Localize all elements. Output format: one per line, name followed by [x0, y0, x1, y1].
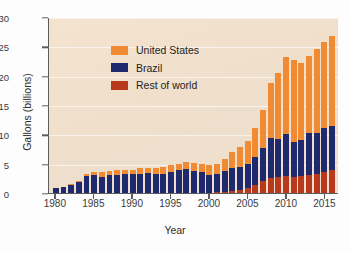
bar-segment [237, 190, 243, 193]
x-axis-tick: 1980 [44, 198, 66, 209]
x-axis-label: Year [0, 224, 350, 236]
bar-segment [252, 185, 258, 193]
x-axis-tick: 1995 [159, 198, 181, 209]
bar-segment [245, 188, 251, 193]
y-axis-tick: 20 [0, 71, 9, 82]
x-axis-tick: 1985 [82, 198, 104, 209]
bar-2016 [329, 18, 335, 193]
bar-segment [268, 138, 274, 178]
y-axis-tick: 30 [0, 13, 9, 24]
bar-segment [130, 174, 136, 193]
bar-segment [229, 168, 235, 191]
y-axis-tick-mark [42, 17, 48, 18]
bar-2010 [283, 18, 289, 193]
bar-2000 [206, 18, 212, 193]
x-axis-tick: 2015 [313, 198, 335, 209]
bar-segment [237, 167, 243, 190]
y-axis-tick-mark [42, 135, 48, 136]
y-axis-tick: 15 [0, 101, 9, 112]
bar-segment [245, 141, 251, 164]
legend-item-brazil: Brazil [111, 62, 199, 74]
bar-segment [252, 157, 258, 185]
bar-2001 [214, 18, 220, 193]
bar-segment [191, 171, 197, 193]
bar-segment [298, 140, 304, 176]
x-axis-tick: 1990 [121, 198, 143, 209]
bar-2009 [275, 18, 281, 193]
bar-segment [168, 165, 174, 173]
bar-2003 [229, 18, 235, 193]
legend-label-rest-of-world: Rest of world [136, 79, 197, 91]
bar-segment [176, 170, 182, 193]
y-axis-tick-mark [42, 47, 48, 48]
y-axis-tick-mark [42, 164, 48, 165]
x-axis-tick-mark [131, 194, 132, 199]
bar-segment [76, 182, 82, 193]
bar-2005 [245, 18, 251, 193]
bar-segment [222, 192, 228, 193]
chart-legend: United States Brazil Rest of world [111, 44, 199, 97]
bar-segment [160, 174, 166, 193]
bar-segment [168, 172, 174, 193]
bar-1983 [76, 18, 82, 193]
x-axis-tick-mark [285, 194, 286, 199]
bar-segment [137, 174, 143, 193]
bar-segment [199, 164, 205, 172]
bar-segment [306, 56, 312, 133]
x-axis-tick-mark [93, 194, 94, 199]
bar-segment [53, 188, 59, 193]
bar-1982 [68, 18, 74, 193]
y-axis-tick: 0 [0, 189, 9, 200]
x-axis-tick-mark [54, 194, 55, 199]
y-axis-tick-mark [42, 193, 48, 194]
y-axis-tick: 25 [0, 42, 9, 53]
bar-segment [91, 175, 97, 193]
bar-segment [99, 177, 105, 193]
bar-segment [214, 164, 220, 173]
ethanol-production-chart: Gallons (billions) United States Brazil … [0, 0, 350, 253]
bar-segment [245, 164, 251, 189]
x-axis-tick-mark [170, 194, 171, 199]
bar-1984 [84, 18, 90, 193]
bar-1981 [61, 18, 67, 193]
x-axis-tick: 2000 [198, 198, 220, 209]
bar-segment [298, 63, 304, 140]
x-axis-tick: 2010 [275, 198, 297, 209]
bar-segment [183, 169, 189, 193]
y-axis-tick-mark [42, 105, 48, 106]
bar-segment [291, 142, 297, 177]
bar-1980 [53, 18, 59, 193]
bar-2015 [321, 18, 327, 193]
y-axis-tick-mark [42, 76, 48, 77]
bar-segment [314, 174, 320, 193]
bar-segment [183, 162, 189, 169]
bar-segment [260, 181, 266, 193]
bar-segment [68, 185, 74, 193]
bar-1985 [91, 18, 97, 193]
x-axis-tick-mark [324, 194, 325, 199]
bar-segment [214, 174, 220, 193]
bar-2012 [298, 18, 304, 193]
bar-segment [283, 176, 289, 193]
bar-segment [153, 174, 159, 193]
bar-segment [199, 172, 205, 193]
bar-segment [222, 159, 228, 171]
x-axis-tick-mark [247, 194, 248, 199]
bar-segment [145, 173, 151, 193]
bar-segment [122, 174, 128, 193]
bar-segment [84, 176, 90, 193]
legend-swatch-united-states [111, 46, 128, 55]
bar-segment [314, 133, 320, 174]
bar-segment [268, 178, 274, 193]
legend-item-rest-of-world: Rest of world [111, 79, 199, 91]
y-axis-tick: 10 [0, 130, 9, 141]
bar-segment [229, 191, 235, 193]
bar-segment [222, 171, 228, 192]
bar-segment [291, 60, 297, 142]
bar-segment [160, 167, 166, 174]
bar-segment [61, 187, 67, 193]
legend-label-brazil: Brazil [136, 62, 162, 74]
bar-2008 [268, 18, 274, 193]
y-axis-tick: 5 [0, 159, 9, 170]
bar-2013 [306, 18, 312, 193]
